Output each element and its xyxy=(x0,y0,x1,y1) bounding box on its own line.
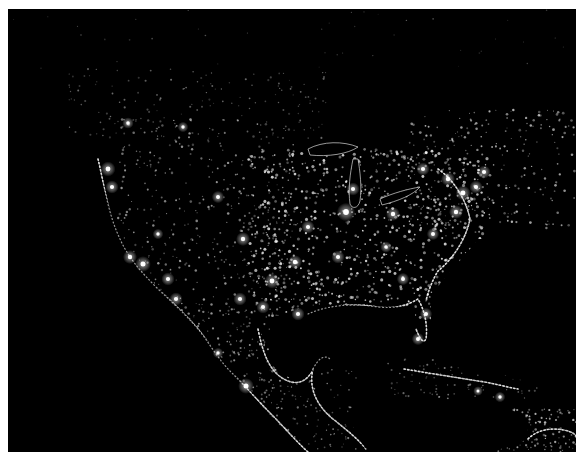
caribbean-water xyxy=(348,399,528,452)
night-lights-satellite-image: Night-time satellite view of North Ameri… xyxy=(8,9,576,452)
north-america-night-map xyxy=(8,9,576,452)
